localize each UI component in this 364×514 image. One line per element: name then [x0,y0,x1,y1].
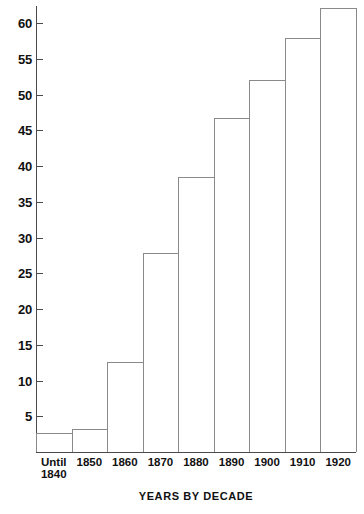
x-axis-tick-label-line: 1850 [77,456,103,468]
y-axis-tick [36,416,43,417]
x-axis-tick-label: 1880 [178,456,214,468]
bar [143,253,180,452]
x-axis-line [36,452,356,453]
bar [320,8,357,452]
bar [36,433,73,452]
y-axis-tick-label: 40 [2,160,32,173]
y-axis-tick [36,95,43,96]
y-axis-tick [36,23,43,24]
x-axis-tick-label-line: Until [41,456,67,468]
bars-layer [36,6,356,452]
bar [214,118,251,452]
y-axis-tick-label: 45 [2,124,32,137]
bar [107,362,144,452]
x-axis-tick-label: 1910 [285,456,321,468]
y-axis-tick-label: 20 [2,303,32,316]
y-axis-tick-label: 10 [2,375,32,388]
bar [178,177,215,452]
y-axis-tick-label: 60 [2,17,32,30]
x-axis-tick-label-line: 1870 [148,456,174,468]
x-axis-tick-label: 1900 [249,456,285,468]
x-axis-tick-label: 1850 [72,456,108,468]
x-axis-tick-label-line: 1890 [219,456,245,468]
y-axis-tick-label: 5 [2,410,32,423]
x-axis-title: YEARS BY DECADE [36,490,356,502]
y-axis-tick-label: 30 [2,232,32,245]
y-axis-tick [36,130,43,131]
x-axis-tick-label: Until1840 [36,456,72,480]
x-axis-tick-label-line: 1910 [290,456,316,468]
y-axis-tick [36,309,43,310]
y-axis-tick-label: 55 [2,53,32,66]
x-axis-tick-label: 1920 [320,456,356,468]
y-axis-tick-label: 50 [2,89,32,102]
y-axis-tick-label: 15 [2,339,32,352]
y-axis-tick-label: 25 [2,267,32,280]
y-axis-tick [36,59,43,60]
x-axis-tick-label: 1870 [143,456,179,468]
y-axis-tick [36,202,43,203]
bar [249,80,286,452]
y-axis-labels: 51015202530354045505560 [0,0,32,514]
bar [285,38,322,452]
y-axis-tick [36,381,43,382]
x-axis-tick-label: 1890 [214,456,250,468]
bar-chart: 51015202530354045505560 Until18401850186… [0,0,364,514]
bar [72,429,109,452]
y-axis-tick-label: 35 [2,196,32,209]
x-axis-tick-label-line: 1840 [36,468,72,480]
x-axis-tick-label-line: 1880 [183,456,209,468]
y-axis-tick [36,345,43,346]
x-axis-labels: Until18401850186018701880189019001910192… [36,456,356,492]
x-axis-tick-label: 1860 [107,456,143,468]
x-axis-tick-label-line: 1920 [325,456,351,468]
y-axis-tick [36,166,43,167]
x-axis-tick-label-line: 1900 [254,456,280,468]
y-axis-tick [36,273,43,274]
x-axis-tick-label-line: 1860 [112,456,138,468]
y-axis-tick [36,238,43,239]
